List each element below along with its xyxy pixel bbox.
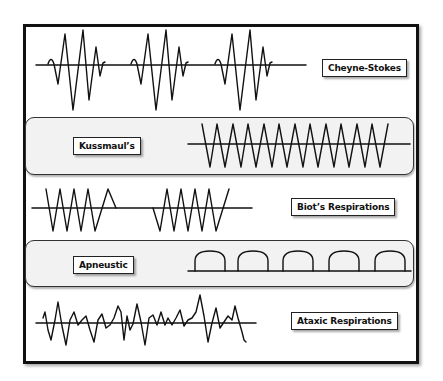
label-cheyne-stokes: Cheyne-Stokes <box>322 59 407 77</box>
kussmaul-waveform <box>188 124 410 167</box>
label-ataxic: Ataxic Respirations <box>291 312 398 330</box>
cheyne-stokes-waveform <box>36 30 306 110</box>
label-kussmaul: Kussmaul’s <box>73 137 141 155</box>
label-apneustic: Apneustic <box>73 256 134 274</box>
apneustic-waveform <box>188 251 411 271</box>
ataxic-waveform <box>36 295 256 345</box>
label-biot: Biot’s Respirations <box>291 198 395 216</box>
biot-waveform <box>32 189 252 231</box>
